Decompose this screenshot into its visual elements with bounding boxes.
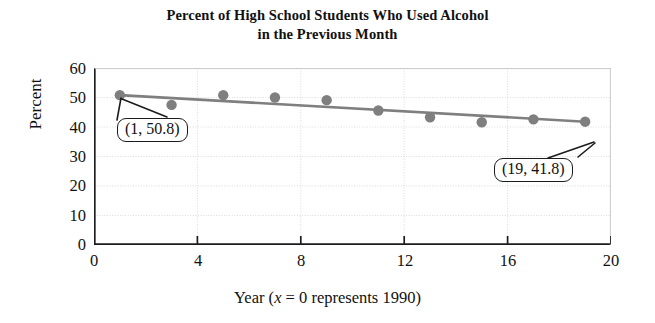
trend-line xyxy=(120,95,585,122)
plot-area xyxy=(94,68,611,245)
data-point xyxy=(270,92,280,102)
x-tick-label-16: 16 xyxy=(488,253,528,270)
data-point xyxy=(425,112,435,122)
x-tick-label-4: 4 xyxy=(178,253,218,270)
data-point xyxy=(580,116,590,126)
chart-figure: Percent of High School Students Who Used… xyxy=(0,0,655,323)
x-tick-label-8: 8 xyxy=(281,253,321,270)
data-point xyxy=(528,114,538,124)
data-point xyxy=(477,117,487,127)
data-point xyxy=(373,105,383,115)
first-point-callout: (1, 50.8) xyxy=(117,118,188,142)
data-point xyxy=(218,90,228,100)
x-tick-label-20: 20 xyxy=(591,253,631,270)
last-point-callout: (19, 41.8) xyxy=(494,158,573,182)
data-point xyxy=(321,95,331,105)
x-tick-label-0: 0 xyxy=(74,253,114,270)
plot-canvas xyxy=(94,68,611,245)
data-point xyxy=(115,90,125,100)
data-point xyxy=(166,100,176,110)
gridlines xyxy=(94,68,611,245)
x-tick-label-12: 12 xyxy=(385,253,425,270)
